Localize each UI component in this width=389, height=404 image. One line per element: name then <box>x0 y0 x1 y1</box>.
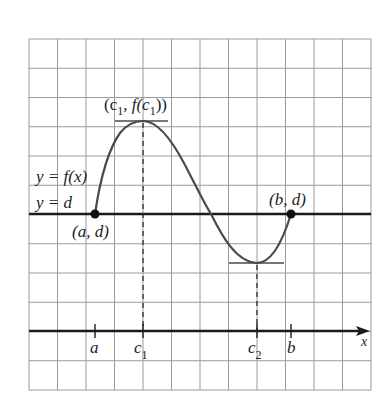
tick-label-c1: c1 <box>134 338 148 362</box>
max-point-label: (c1, f(c1)) <box>104 95 167 118</box>
curve-label: y = f(x) <box>34 167 87 186</box>
rolles-theorem-figure: (c1, f(c1)) y = f(x) y = d (a, d) (b, d)… <box>0 0 389 404</box>
x-axis-label: x <box>360 334 368 349</box>
function-curve <box>95 121 291 263</box>
line-label: y = d <box>34 193 73 212</box>
point-a-d <box>91 210 100 219</box>
point-b-label: (b, d) <box>269 190 306 209</box>
tick-label-c2: c2 <box>248 338 262 362</box>
tick-label-a: a <box>90 338 99 357</box>
point-b-d <box>287 210 296 219</box>
tick-label-b: b <box>287 338 296 357</box>
point-a-label: (a, d) <box>72 222 109 241</box>
